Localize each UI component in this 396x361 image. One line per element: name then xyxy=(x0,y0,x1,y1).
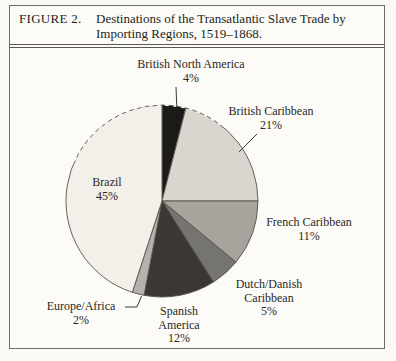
figure-title: Destinations of the Transatlantic Slave … xyxy=(96,11,376,41)
figure-title-line2: Importing Regions, 1519–1868. xyxy=(96,26,376,41)
figure-title-line1: Destinations of the Transatlantic Slave … xyxy=(96,11,376,26)
pie-chart-area: British North America 4% British Caribbe… xyxy=(10,48,384,348)
leader-line-europe-africa xyxy=(125,296,142,307)
callout-spanish-america: Spanish America 12% xyxy=(158,305,199,346)
scanned-book-page: { "figure": { "label": "FIGURE 2.", "tit… xyxy=(0,0,396,361)
figure-box: FIGURE 2. Destinations of the Transatlan… xyxy=(9,5,385,349)
callout-french-caribbean: French Caribbean 11% xyxy=(266,216,352,243)
callout-british-caribbean: British Caribbean 21% xyxy=(229,105,314,132)
callout-british-north-america: British North America 4% xyxy=(137,58,244,85)
callout-brazil: Brazil 45% xyxy=(92,176,121,203)
callout-dutch-danish-caribbean: Dutch/Danish Caribbean 5% xyxy=(236,278,303,319)
figure-number-label: FIGURE 2. xyxy=(19,11,96,26)
figure-header: FIGURE 2. Destinations of the Transatlan… xyxy=(10,6,384,48)
leader-line-british-caribbean xyxy=(239,134,257,152)
callout-europe-africa: Europe/Africa 2% xyxy=(47,300,116,327)
leader-line-british-north-america xyxy=(176,87,177,107)
